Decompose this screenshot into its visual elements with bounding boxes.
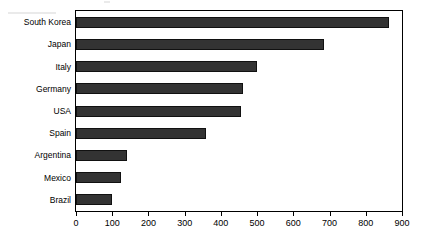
category-label-mexico: Mexico — [0, 173, 71, 183]
x-tick-label-900: 900 — [394, 218, 409, 229]
category-label-argentina: Argentina — [0, 150, 71, 160]
bar — [76, 61, 257, 72]
x-tick-label-400: 400 — [213, 218, 228, 229]
x-tick-label-800: 800 — [358, 218, 373, 229]
x-tick-mark — [76, 212, 77, 216]
bars-layer — [76, 11, 402, 211]
bar-row — [76, 150, 402, 161]
category-label-japan: Japan — [0, 39, 71, 49]
x-tick-label-0: 0 — [73, 218, 78, 229]
x-tick-mark — [148, 212, 149, 216]
bar — [76, 17, 389, 28]
category-label-south-korea: South Korea — [0, 17, 71, 27]
x-tick-label-300: 300 — [177, 218, 192, 229]
category-label-usa: USA — [0, 106, 71, 116]
bar-row — [76, 61, 402, 72]
bar — [76, 194, 112, 205]
bar — [76, 106, 241, 117]
category-label-italy: Italy — [0, 62, 71, 72]
x-tick-mark — [293, 212, 294, 216]
scan-artifact — [104, 1, 110, 3]
bar-row — [76, 172, 402, 183]
bar-row — [76, 106, 402, 117]
x-tick-label-500: 500 — [250, 218, 265, 229]
x-tick-label-100: 100 — [105, 218, 120, 229]
x-tick-label-200: 200 — [141, 218, 156, 229]
bar-row — [76, 128, 402, 139]
bar-row — [76, 83, 402, 94]
x-tick-mark — [221, 212, 222, 216]
x-tick-mark — [185, 212, 186, 216]
x-tick-label-700: 700 — [322, 218, 337, 229]
bar — [76, 83, 243, 94]
category-label-spain: Spain — [0, 128, 71, 138]
bar — [76, 128, 206, 139]
bar-chart: South KoreaJapanItalyGermanyUSASpainArge… — [0, 0, 421, 249]
category-label-germany: Germany — [0, 84, 71, 94]
bar-row — [76, 194, 402, 205]
category-axis-labels: South KoreaJapanItalyGermanyUSASpainArge… — [0, 11, 71, 211]
x-tick-label-600: 600 — [286, 218, 301, 229]
x-tick-mark — [112, 212, 113, 216]
x-tick-mark — [330, 212, 331, 216]
x-tick-mark — [257, 212, 258, 216]
bar-row — [76, 17, 402, 28]
bar — [76, 39, 324, 50]
bar — [76, 150, 127, 161]
bar — [76, 172, 121, 183]
x-tick-mark — [402, 212, 403, 216]
bar-row — [76, 39, 402, 50]
category-label-brazil: Brazil — [0, 195, 71, 205]
x-tick-mark — [366, 212, 367, 216]
